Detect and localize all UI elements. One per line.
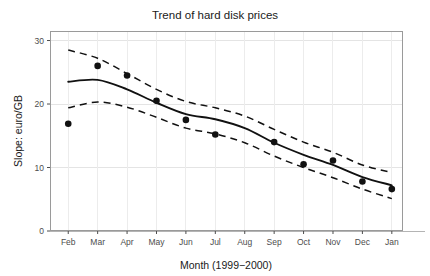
data-point xyxy=(153,98,160,105)
x-tick-label: Sep xyxy=(267,237,282,247)
data-point xyxy=(94,63,101,70)
x-tick-label: Apr xyxy=(120,237,133,247)
y-tick-label: 10 xyxy=(35,163,45,173)
data-point xyxy=(271,139,278,146)
x-tick-label: May xyxy=(148,237,165,247)
x-tick-label: Dec xyxy=(355,237,371,247)
x-tick-label: Feb xyxy=(61,237,76,247)
chart-canvas: Trend of hard disk prices 0102030 FebMar… xyxy=(0,0,430,276)
y-tick-label: 20 xyxy=(35,99,45,109)
x-tick-label: Oct xyxy=(297,237,311,247)
x-tick-label: Jun xyxy=(179,237,193,247)
x-tick-label: Jul xyxy=(210,237,221,247)
data-point xyxy=(183,117,190,124)
data-point xyxy=(359,178,366,185)
data-point xyxy=(212,131,219,138)
data-point xyxy=(300,161,307,168)
y-axis-title: Slope: euro/GB xyxy=(12,95,24,167)
x-tick-label: Jan xyxy=(385,237,399,247)
x-tick-label: Mar xyxy=(90,237,105,247)
x-tick-label: Aug xyxy=(237,237,252,247)
chart-figure: Trend of hard disk prices 0102030 FebMar… xyxy=(0,0,430,276)
y-tick-label: 0 xyxy=(39,226,44,236)
data-point xyxy=(330,157,337,164)
y-tick-label: 30 xyxy=(35,36,45,46)
data-point xyxy=(65,120,72,127)
chart-title: Trend of hard disk prices xyxy=(152,9,278,21)
data-point xyxy=(389,186,396,193)
x-tick-label: Nov xyxy=(325,237,341,247)
data-point xyxy=(124,72,131,79)
x-axis-title: Month (1999−2000) xyxy=(180,259,272,271)
